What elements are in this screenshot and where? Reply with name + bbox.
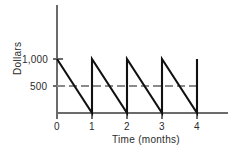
y-tick-label-1000: 1,000 bbox=[22, 54, 48, 65]
x-tick-label-0: 0 bbox=[54, 121, 60, 132]
x-tick-label-4: 4 bbox=[194, 121, 200, 132]
sawtooth-balance-chart: 1,000 500 0 1 2 3 4 Dollars Time (months… bbox=[0, 0, 248, 152]
x-tick-label-3: 3 bbox=[159, 121, 165, 132]
x-tick-label-2: 2 bbox=[124, 121, 130, 132]
y-tick-label-500: 500 bbox=[30, 81, 47, 92]
balance-series-line bbox=[57, 59, 197, 113]
x-tick-label-1: 1 bbox=[89, 121, 95, 132]
x-axis-title: Time (months) bbox=[112, 134, 180, 145]
y-axis-title: Dollars bbox=[12, 42, 23, 75]
